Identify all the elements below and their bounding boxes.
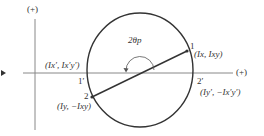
point-1p-label: 1′ [78, 77, 84, 86]
mohr-circle [87, 13, 193, 127]
angle-arrowhead-icon [124, 68, 129, 73]
point-2-coords: (Iy, −Ixy) [57, 102, 91, 111]
point-2-marker [90, 95, 93, 98]
point-1-coords: (Ix, Ixy) [194, 50, 222, 59]
point-2-label: 2 [84, 92, 89, 101]
vertical-axis-label: (+) [27, 5, 38, 14]
point-2p-coords: (Iy′, −Ix′y′) [200, 88, 240, 97]
point-1p-coords: (Ix′, Ix′y′) [45, 61, 79, 70]
horizontal-axis-label: (+) [236, 68, 247, 77]
point-2p-label: 2′ [197, 77, 203, 86]
diameter-line [92, 51, 187, 97]
angle-label: 2θp [128, 36, 141, 45]
left-arrow-icon [1, 70, 6, 76]
point-1-marker [185, 49, 188, 52]
mohr-circle-diagram [0, 0, 264, 136]
